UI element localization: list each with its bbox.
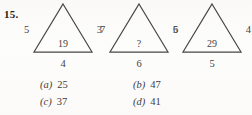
option-a[interactable]: (a)25: [40, 79, 68, 91]
option-b-label: (b): [133, 79, 145, 90]
option-c-value: 37: [57, 96, 68, 107]
option-b[interactable]: (b)47: [133, 79, 161, 91]
triangle-3-center-label: 29: [170, 38, 252, 49]
option-a-value: 25: [57, 79, 68, 90]
figure-triangle-3: 6 4 29 5: [170, 0, 252, 72]
option-c[interactable]: (c)37: [40, 96, 67, 108]
triangle-2-base-label: 6: [97, 58, 181, 69]
option-b-value: 47: [150, 79, 161, 90]
option-a-label: (a): [40, 79, 52, 90]
option-d[interactable]: (d)41: [133, 96, 161, 108]
triangle-1-base-label: 4: [21, 58, 105, 69]
triangle-3-base-label: 5: [170, 58, 252, 69]
worksheet-page: 15. 5 3 19 4 7 5 ? 6 6 4 29 5 (a)25 (b)4…: [0, 0, 252, 115]
option-d-value: 41: [150, 96, 161, 107]
triangle-2-center-label: ?: [97, 38, 181, 49]
option-c-label: (c): [40, 96, 52, 107]
figure-triangle-2: 7 5 ? 6: [97, 0, 181, 72]
option-d-label: (d): [133, 96, 145, 107]
triangle-3-right-label: 4: [246, 24, 251, 35]
figure-triangle-1: 5 3 19 4: [21, 0, 105, 72]
triangle-2-left-label: 7: [100, 24, 105, 35]
question-number: 15.: [4, 8, 18, 20]
triangle-3-left-label: 6: [173, 24, 178, 35]
triangle-1-left-label: 5: [24, 24, 29, 35]
triangle-1-center-label: 19: [21, 38, 105, 49]
